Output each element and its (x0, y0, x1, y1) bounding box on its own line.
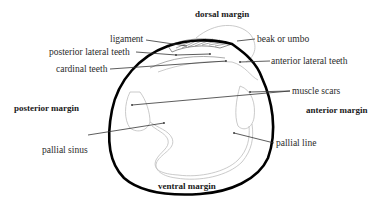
pallial-sinus-label: pallial sinus (42, 145, 88, 155)
beak-or-umbo-label: beak or umbo (257, 34, 309, 44)
bivalve-shell-diagram: dorsal margin posterior margin anterior … (0, 0, 384, 202)
dorsal-margin-label: dorsal margin (195, 9, 249, 19)
pallial-line-label: pallial line (276, 138, 316, 148)
posterior-lateral-teeth-label: posterior lateral teeth (49, 47, 130, 57)
anterior-muscle-scar (236, 86, 255, 129)
posterior-margin-label: posterior margin (14, 103, 79, 113)
ligament-label: ligament (110, 34, 144, 44)
anterior-margin-label: anterior margin (306, 105, 368, 115)
posterior-muscle-scar (126, 92, 151, 131)
pallial-line-path (150, 122, 253, 179)
cardinal-teeth-label: cardinal teeth (56, 64, 108, 74)
ventral-margin-label: ventral margin (158, 181, 216, 191)
muscle-scars-label: muscle scars (292, 86, 341, 96)
anterior-lateral-teeth-label: anterior lateral teeth (271, 56, 348, 66)
